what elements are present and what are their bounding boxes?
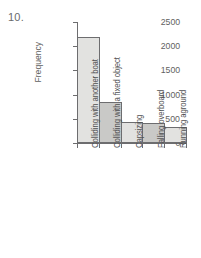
x-axis-category-label: Colliding with another boat (91, 59, 100, 148)
y-axis-tick-label: 2500 (161, 17, 180, 27)
y-axis-tick-label: 2000 (161, 41, 180, 51)
figure-container: 10. Frequency 05001000150020002500 Colli… (0, 0, 201, 258)
x-axis-category-label: Falling overboard (157, 90, 166, 148)
x-axis-category-label: Running aground (179, 90, 188, 148)
exercise-item-number: 10. (8, 11, 24, 23)
y-axis-tick (73, 22, 77, 23)
x-axis-category-label: Capsizing (135, 115, 144, 148)
x-axis-tick (77, 143, 78, 148)
x-axis-category-label: Colliding with a fixed object (113, 57, 122, 148)
y-axis-tick-label: 1500 (161, 65, 180, 75)
y-axis-title: Frequency (33, 42, 43, 82)
